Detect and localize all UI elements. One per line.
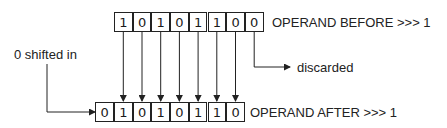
bit-cell: 1 bbox=[208, 12, 227, 32]
after-label: OPERAND AFTER >>> 1 bbox=[250, 106, 397, 119]
bit-cell: 0 bbox=[170, 12, 189, 32]
bit-cell: 1 bbox=[114, 12, 133, 32]
bit-cell: 1 bbox=[151, 102, 170, 122]
bit-cell: 0 bbox=[133, 12, 152, 32]
bit-cell: 0 bbox=[95, 102, 114, 122]
bit-cell: 0 bbox=[133, 102, 152, 122]
discarded-label: discarded bbox=[297, 61, 353, 74]
bit-cell: 0 bbox=[245, 12, 264, 32]
discarded-arrow bbox=[254, 32, 290, 67]
bit-cell: 0 bbox=[170, 102, 189, 122]
bit-cell: 1 bbox=[189, 102, 208, 122]
bit-cell: 0 bbox=[226, 102, 245, 122]
bit-cell: 1 bbox=[151, 12, 170, 32]
bit-cell: 1 bbox=[189, 12, 208, 32]
shifted-in-arrow bbox=[47, 64, 95, 112]
shifted-in-label: 0 shifted in bbox=[14, 48, 77, 61]
bit-cell: 1 bbox=[114, 102, 133, 122]
bit-cell: 1 bbox=[208, 102, 227, 122]
bit-cell: 0 bbox=[226, 12, 245, 32]
before-label: OPERAND BEFORE >>> 1 bbox=[272, 16, 431, 29]
